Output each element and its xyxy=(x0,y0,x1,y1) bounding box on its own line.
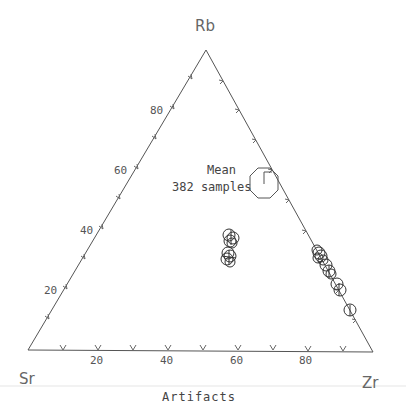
bottom-tick-40: 40 xyxy=(160,354,173,367)
bottom-tick-60: 60 xyxy=(230,354,243,367)
vertex-label-sr: Sr xyxy=(19,370,36,388)
ternary-diagram: 20 40 60 80 20 40 60 80 Rb Sr Zr Mean 38… xyxy=(0,0,406,417)
left-tick-labels: 20 40 60 80 xyxy=(44,104,163,297)
bottom-tick-20: 20 xyxy=(90,354,103,367)
bottom-tick-labels: 20 40 60 80 xyxy=(90,354,312,367)
vertex-label-zr: Zr xyxy=(362,374,379,392)
left-tick-80: 80 xyxy=(150,104,163,117)
mean-samples-label: 382 samples xyxy=(172,180,251,194)
chart-title: Artifacts xyxy=(162,390,236,404)
mean-label: Mean xyxy=(207,163,236,177)
vertex-label-rb: Rb xyxy=(195,17,215,35)
triangle-frame xyxy=(28,50,373,352)
left-tick-40: 40 xyxy=(80,224,93,237)
bottom-tick-80: 80 xyxy=(299,354,312,367)
left-tick-60: 60 xyxy=(114,164,127,177)
left-tick-20: 20 xyxy=(44,284,57,297)
mean-marker-octagon xyxy=(250,168,278,198)
data-cluster-central xyxy=(221,229,239,267)
